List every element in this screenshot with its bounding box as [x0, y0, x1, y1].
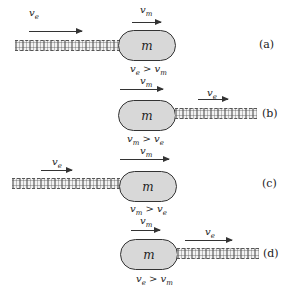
mass-body-d: m	[120, 239, 178, 270]
vm-arrow-c	[120, 159, 169, 160]
ve-label-c: ve	[52, 156, 62, 170]
mass-label-a: m	[141, 39, 152, 53]
vm-arrow-d	[131, 230, 160, 231]
vm-label-d: vm	[140, 215, 152, 229]
vm-arrow-b	[120, 89, 163, 90]
ve-label-a: ve	[29, 7, 39, 21]
exhaust-stream-c	[12, 178, 120, 189]
exhaust-stream-d	[177, 248, 259, 259]
ve-arrow-d	[185, 240, 232, 241]
mass-label-c: m	[142, 180, 153, 194]
ve-arrow-b	[198, 99, 228, 100]
ve-arrow-a	[29, 31, 82, 32]
vm-label-c: vm	[140, 145, 152, 159]
exhaust-stream-a	[15, 40, 120, 51]
vm-label-b: vm	[140, 75, 152, 89]
mass-label-d: m	[143, 248, 154, 262]
mass-body-a: m	[118, 30, 176, 61]
condition-d: ve > vm	[136, 273, 173, 287]
panel-tag-c: (c)	[262, 177, 277, 190]
vm-label-a: vm	[140, 4, 152, 18]
ve-arrow-c	[41, 170, 72, 171]
mass-label-b: m	[141, 109, 152, 123]
exhaust-stream-b	[175, 108, 257, 119]
panel-tag-b: (b)	[262, 107, 278, 120]
mass-body-c: m	[119, 171, 177, 202]
mass-body-b: m	[118, 100, 176, 131]
panel-tag-a: (a)	[259, 38, 274, 51]
panel-tag-d: (d)	[263, 247, 279, 260]
ve-label-d: ve	[205, 226, 215, 240]
vm-arrow-a	[132, 22, 161, 23]
